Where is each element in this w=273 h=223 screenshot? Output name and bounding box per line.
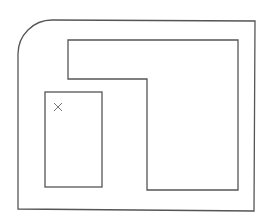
small-rect-region <box>45 92 102 187</box>
floor-plan-svg <box>0 0 273 223</box>
x-marker-icon <box>54 103 62 111</box>
diagram-canvas <box>0 0 273 223</box>
outer-boundary <box>18 20 255 211</box>
l-shape-region <box>68 40 238 190</box>
